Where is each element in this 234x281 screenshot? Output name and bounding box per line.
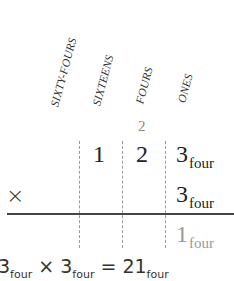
multiplicand-digit-fours: 2 — [136, 142, 148, 166]
header-sixty-fours: SIXTY-FOURS — [48, 36, 78, 108]
eq-result-base: four — [147, 268, 169, 281]
header-fours: FOURS — [133, 66, 154, 105]
digit-value: 3 — [176, 141, 188, 167]
eq-left: 3 — [0, 255, 10, 277]
column-divider-3 — [165, 141, 166, 248]
column-divider-2 — [122, 141, 123, 248]
base-subscript: four — [189, 155, 214, 171]
result-digit-ones: 1four — [176, 222, 214, 255]
eq-operator: × 3 — [38, 255, 72, 277]
header-ones: ONES — [175, 72, 194, 104]
multiplicand-digit-sixteens: 1 — [93, 142, 105, 166]
multiplicand-digit-ones: 3four — [176, 142, 214, 175]
header-sixteens: SIXTEENS — [90, 54, 115, 107]
base-subscript: four — [189, 195, 214, 211]
eq-right-base: four — [72, 268, 94, 281]
eq-left-base: four — [10, 268, 32, 281]
digit-value: 3 — [176, 181, 188, 207]
multiplier-digit-ones: 3four — [176, 182, 214, 215]
multiply-sign: × — [6, 183, 24, 208]
equation-caption: 3four × 3four = 21four — [0, 255, 169, 281]
digit-value: 1 — [176, 221, 188, 247]
base-subscript: four — [189, 235, 214, 251]
column-divider-1 — [79, 141, 80, 248]
eq-equals: = 21 — [100, 255, 146, 277]
carry-digit: 2 — [138, 118, 146, 135]
sum-line — [7, 213, 234, 215]
